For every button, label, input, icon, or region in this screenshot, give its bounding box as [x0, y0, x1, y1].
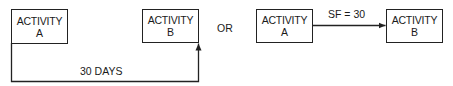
activity-b-label: ACTIVITY — [392, 14, 438, 26]
activity-b-id: B — [411, 26, 418, 38]
activity-a-label: ACTIVITY — [262, 14, 308, 26]
activity-a-box-right: ACTIVITY A — [256, 9, 313, 43]
lag-label: 30 DAYS — [80, 65, 122, 77]
activity-b-label: ACTIVITY — [148, 14, 194, 26]
activity-a-id: A — [36, 27, 43, 39]
or-separator: OR — [217, 22, 233, 34]
activity-a-id: A — [281, 26, 288, 38]
activity-b-box-left: ACTIVITY B — [142, 9, 199, 43]
activity-b-box-right: ACTIVITY B — [386, 9, 443, 43]
activity-a-label: ACTIVITY — [17, 15, 63, 27]
activity-b-id: B — [167, 26, 174, 38]
sf-label: SF = 30 — [328, 8, 365, 20]
activity-a-box-left: ACTIVITY A — [11, 9, 68, 44]
